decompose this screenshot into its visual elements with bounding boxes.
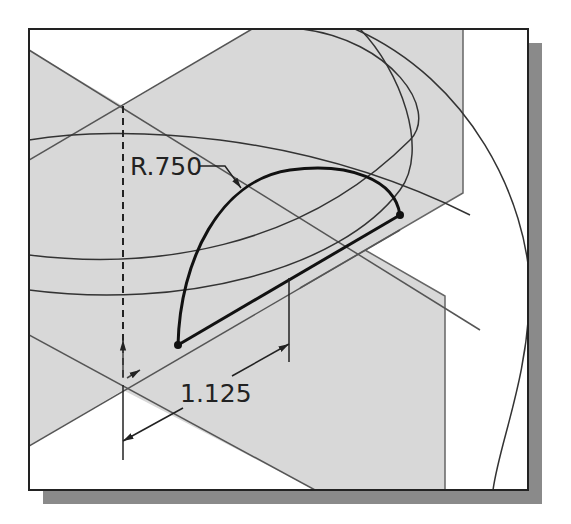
cad-figure: 1.125 R.750 bbox=[0, 0, 571, 524]
sketch-endpoint-left[interactable] bbox=[174, 341, 182, 349]
sketch-endpoint-right[interactable] bbox=[396, 211, 404, 219]
dimension-linear-label[interactable]: 1.125 bbox=[180, 379, 252, 408]
dimension-radius-label[interactable]: R.750 bbox=[130, 152, 202, 181]
sketch-canvas: 1.125 R.750 bbox=[0, 0, 571, 524]
